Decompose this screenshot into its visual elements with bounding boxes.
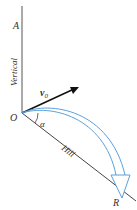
velocity-vector <box>22 89 74 113</box>
label-angle: α <box>40 119 45 129</box>
label-vertical: Vertical <box>9 58 19 86</box>
projectile-on-hill-diagram: A Vertical v0 O α Hill R <box>0 0 137 210</box>
label-origin: O <box>10 112 17 123</box>
label-velocity: v0 <box>40 87 48 100</box>
label-range-point: R <box>112 197 119 208</box>
angle-arc <box>35 113 38 123</box>
label-hill: Hill <box>59 142 77 159</box>
trajectory-inner <box>22 110 116 175</box>
label-point-a: A <box>12 20 20 31</box>
